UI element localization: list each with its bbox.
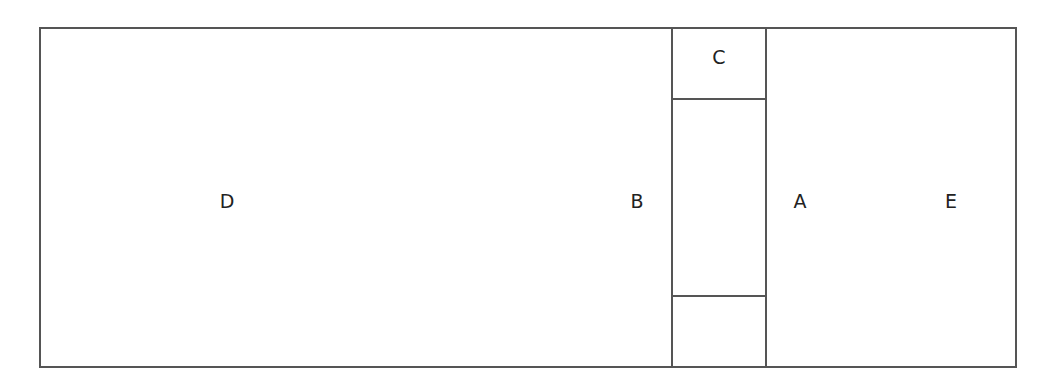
- outer-rect-top-edge: [39, 27, 1017, 29]
- middle-column-right-edge: [765, 27, 767, 368]
- region-label-e: E: [945, 192, 957, 211]
- outer-rect-bottom-edge: [39, 366, 1017, 368]
- middle-column-bottom-divider: [671, 295, 767, 297]
- region-label-a: A: [794, 192, 807, 211]
- middle-column-left-edge: [671, 27, 673, 368]
- region-label-b: B: [630, 192, 643, 211]
- diagram-canvas: D B C A E: [0, 0, 1042, 380]
- region-label-d: D: [220, 192, 235, 211]
- outer-rect-right-edge: [1015, 27, 1017, 368]
- region-label-c: C: [712, 48, 725, 67]
- outer-rect-left-edge: [39, 27, 41, 368]
- middle-column-top-divider: [671, 98, 767, 100]
